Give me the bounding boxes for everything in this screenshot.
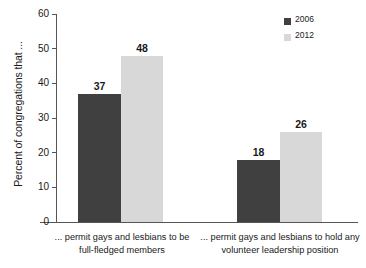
x-axis-category-label-1: ... permit gays and lesbians to be full-… <box>42 231 202 256</box>
bar-2006-full-fledged-members <box>78 94 121 222</box>
bar-2012-volunteer-leadership <box>280 132 322 222</box>
y-tick-label: 20 <box>38 146 49 159</box>
y-tick-label: 40 <box>38 76 49 89</box>
legend-label: 2006 <box>295 14 314 24</box>
bar-chart: Percent of congregations that ... 60 50 … <box>0 0 366 268</box>
category-label-line: ... permit gays and lesbians to hold any <box>196 231 364 244</box>
bar-2006-volunteer-leadership <box>237 160 280 222</box>
y-tick-label: 0 <box>43 215 49 228</box>
category-label-line: ... permit gays and lesbians to be <box>42 231 202 244</box>
category-label-line: volunteer leadership position <box>196 244 364 257</box>
y-axis-title: Percent of congregations that ... <box>12 14 24 214</box>
y-tick-label: 60 <box>38 7 49 20</box>
bar-value-label: 26 <box>280 118 322 130</box>
plot-area: 37 48 18 26 <box>56 14 356 222</box>
bar-value-label: 18 <box>237 146 280 158</box>
bar-value-label: 48 <box>121 42 163 54</box>
bar-2012-full-fledged-members <box>121 56 163 222</box>
x-axis-category-label-2: ... permit gays and lesbians to hold any… <box>196 231 364 256</box>
y-tick-label: 10 <box>38 180 49 193</box>
y-tick-label: 50 <box>38 42 49 55</box>
legend-label: 2012 <box>295 30 314 40</box>
y-tick-label: 30 <box>38 111 49 124</box>
x-axis-line <box>40 222 358 223</box>
legend-swatch-icon <box>284 34 291 41</box>
category-label-line: full-fledged members <box>42 244 202 257</box>
bar-value-label: 37 <box>78 80 121 92</box>
legend-swatch-icon <box>284 18 291 25</box>
